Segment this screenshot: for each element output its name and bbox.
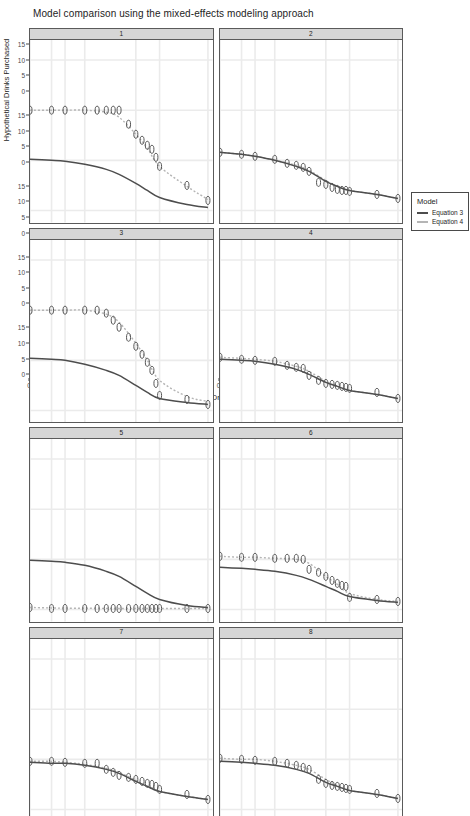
- data-point: [339, 382, 343, 390]
- model-curve-equation-3: [30, 762, 208, 799]
- data-point: [150, 366, 154, 374]
- facet-panel: 8: [219, 627, 404, 816]
- data-point: [154, 379, 158, 387]
- facet-strip-label: 3: [29, 228, 214, 239]
- facet-plot-area: [29, 438, 214, 623]
- y-tick-label: 15: [18, 253, 25, 260]
- model-curve-equation-3: [220, 761, 398, 798]
- facet-panel: 1: [29, 28, 214, 224]
- data-point: [339, 581, 343, 589]
- model-curve-equation-3: [30, 560, 208, 607]
- facet-panel: 5: [29, 427, 214, 623]
- y-tick-label: 15: [18, 41, 25, 48]
- facet-strip-label: 7: [29, 627, 214, 638]
- model-curve-equation-3: [30, 159, 208, 207]
- model-curve-equation-4: [30, 607, 208, 608]
- legend-entry-label: Equation 3: [432, 209, 463, 216]
- facet-plot-area: [29, 39, 214, 224]
- data-point: [294, 363, 298, 371]
- y-tick-label: 10: [18, 340, 25, 347]
- legend-color-swatch: [417, 212, 428, 214]
- model-curve-equation-4: [220, 357, 398, 398]
- data-point: [95, 759, 99, 767]
- model-curve-equation-3: [30, 358, 208, 404]
- facet-strip-label: 4: [219, 228, 404, 239]
- data-point: [374, 388, 378, 396]
- y-tick-label: 5: [21, 72, 25, 79]
- facet-plot-area: [29, 638, 214, 816]
- legend-entry: Equation 4: [417, 218, 463, 225]
- facet-panel: 7: [29, 627, 214, 816]
- facet-strip-label: 8: [219, 627, 404, 638]
- y-tick-label: 5: [21, 355, 25, 362]
- legend-color-swatch: [417, 221, 428, 223]
- y-tick-label: 10: [18, 127, 25, 134]
- data-point: [343, 582, 347, 590]
- facet-plot-area: [219, 438, 404, 623]
- data-point: [307, 565, 311, 573]
- facet-plot-area: [219, 39, 404, 224]
- data-point: [150, 780, 154, 788]
- data-point: [316, 178, 320, 186]
- y-tick-label: 15: [18, 182, 25, 189]
- model-curve-equation-3: [220, 359, 398, 398]
- y-tick-label: 0: [21, 158, 25, 165]
- facet-panel: 2: [219, 28, 404, 224]
- chart-title: Model comparison using the mixed-effects…: [33, 8, 314, 19]
- y-tick-label: 15: [18, 112, 25, 119]
- y-tick-label: 10: [18, 56, 25, 63]
- y-tick-label: 0: [21, 371, 25, 378]
- data-point: [294, 554, 298, 562]
- data-point: [335, 579, 339, 587]
- facet-strip-label: 1: [29, 28, 214, 39]
- facet-panel: 3: [29, 228, 214, 424]
- facet-plot-area: [29, 239, 214, 424]
- y-tick-label: 10: [18, 269, 25, 276]
- data-point: [117, 323, 121, 331]
- y-tick-label: 0: [21, 229, 25, 236]
- y-tick-label: 5: [21, 143, 25, 150]
- data-point: [374, 789, 378, 797]
- y-tick-label: 15: [18, 324, 25, 331]
- legend-entries: Equation 3Equation 4: [417, 209, 463, 225]
- model-curve-equation-4: [30, 110, 208, 199]
- facet-strip-label: 6: [219, 427, 404, 438]
- facet-panel: 4: [219, 228, 404, 424]
- y-tick-label: 0: [21, 300, 25, 307]
- data-point: [285, 361, 289, 369]
- legend-entry: Equation 3: [417, 209, 463, 216]
- y-tick-label: 10: [18, 198, 25, 205]
- model-curve-equation-4: [30, 761, 208, 799]
- model-curve-equation-3: [220, 567, 398, 602]
- facet-strip-label: 2: [219, 28, 404, 39]
- model-curve-equation-4: [220, 758, 398, 798]
- y-tick-label: 5: [21, 284, 25, 291]
- data-point: [150, 145, 154, 153]
- y-axis-ticks: 051015051015051015051015051015: [0, 0, 29, 408]
- legend: Model Equation 3Equation 4: [411, 192, 469, 231]
- facet-plot-area: [219, 638, 404, 816]
- data-point: [127, 333, 131, 341]
- legend-entry-label: Equation 4: [432, 218, 463, 225]
- facet-panel-grid: 12345678910: [29, 28, 403, 378]
- y-tick-label: 0: [21, 88, 25, 95]
- data-point: [185, 790, 189, 798]
- facet-plot-area: [219, 239, 404, 424]
- facet-strip-label: 5: [29, 427, 214, 438]
- y-tick-label: 5: [21, 214, 25, 221]
- facet-panel: 6: [219, 427, 404, 623]
- legend-title: Model: [417, 197, 463, 206]
